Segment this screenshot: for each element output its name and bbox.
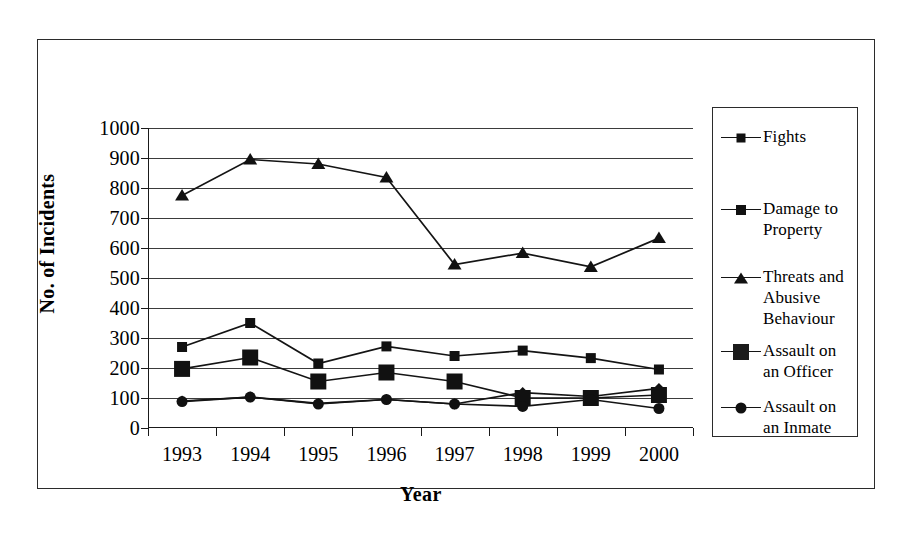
x-axis-tick-mark xyxy=(421,428,422,436)
y-axis-title: No. of Incidents xyxy=(36,134,59,354)
x-axis-tick-mark xyxy=(148,428,149,436)
x-axis-tick-label: 1996 xyxy=(366,443,406,465)
data-point-marker xyxy=(653,403,664,414)
series-layer xyxy=(148,128,694,429)
y-axis-tick-mark xyxy=(141,158,148,159)
data-point-marker xyxy=(450,351,460,361)
y-axis-tick-mark xyxy=(141,338,148,339)
y-axis-tick-labels: 10009008007006005004003002001000 xyxy=(58,118,140,438)
data-point-marker xyxy=(378,365,394,381)
legend-label: Assault on an Officer xyxy=(763,340,836,382)
y-axis-tick-label: 500 xyxy=(58,268,140,288)
x-axis-tick-mark xyxy=(693,428,694,436)
x-axis-tick-mark xyxy=(284,428,285,436)
x-axis-tick-mark xyxy=(489,428,490,436)
data-point-marker xyxy=(177,342,187,352)
y-axis-tick-mark xyxy=(141,398,148,399)
data-point-marker xyxy=(245,318,255,328)
series-damage-to-property xyxy=(177,318,664,375)
y-axis-tick-mark xyxy=(141,218,148,219)
chart-legend: FightsDamage to PropertyThreats and Abus… xyxy=(712,107,858,437)
x-axis-tick-label: 1994 xyxy=(230,443,270,465)
x-axis-tick-labels: 19931994199519961997199819992000 xyxy=(148,443,694,469)
x-axis-tick-label: 1999 xyxy=(571,443,611,465)
data-point-marker xyxy=(174,361,190,377)
circle-marker-icon xyxy=(736,403,747,414)
x-axis-tick-label: 1997 xyxy=(435,443,475,465)
legend-label: Threats and Abusive Behaviour xyxy=(763,266,844,329)
chart-page: No. of Incidents 10009008007006005004003… xyxy=(0,0,913,555)
legend-key-diamond-icon xyxy=(719,128,763,148)
legend-key-triangle-icon xyxy=(719,268,763,288)
legend-key-big-square-icon xyxy=(719,342,763,362)
y-axis-tick-mark xyxy=(141,428,148,429)
x-axis-tick-mark xyxy=(625,428,626,436)
data-point-marker xyxy=(516,247,530,259)
legend-item-damage-to[interactable]: Damage to Property xyxy=(719,198,859,240)
x-axis-tick-mark xyxy=(557,428,558,436)
data-point-marker xyxy=(518,346,528,356)
legend-item-assault-on[interactable]: Assault on an Officer xyxy=(719,340,859,382)
y-axis-tick-mark xyxy=(141,128,148,129)
legend-item-fights[interactable]: Fights xyxy=(719,126,859,148)
legend-item-threats-and[interactable]: Threats and Abusive Behaviour xyxy=(719,266,859,329)
series-line xyxy=(182,160,659,267)
legend-label: Fights xyxy=(763,126,806,147)
y-axis-tick-label: 300 xyxy=(58,328,140,348)
legend-key-circle-icon xyxy=(719,398,763,418)
data-point-marker xyxy=(245,392,256,403)
data-point-marker xyxy=(585,394,596,405)
x-axis-tick-mark xyxy=(352,428,353,436)
y-axis-tick-label: 600 xyxy=(58,238,140,258)
legend-label: Damage to Property xyxy=(763,198,838,240)
square-marker-icon xyxy=(736,205,746,215)
data-point-marker xyxy=(517,401,528,412)
data-point-marker xyxy=(313,359,323,369)
y-axis-tick-label: 0 xyxy=(58,418,140,438)
x-axis-tick-label: 1998 xyxy=(503,443,543,465)
y-axis-tick-label: 100 xyxy=(58,388,140,408)
data-point-marker xyxy=(177,396,188,407)
data-point-marker xyxy=(242,350,258,366)
x-axis-tick-label: 1995 xyxy=(298,443,338,465)
y-axis-tick-label: 200 xyxy=(58,358,140,378)
x-axis-title: Year xyxy=(148,483,694,506)
y-axis-tick-mark xyxy=(141,278,148,279)
data-point-marker xyxy=(652,232,666,244)
data-point-marker xyxy=(175,189,189,201)
data-point-marker xyxy=(654,365,664,375)
triangle-marker-icon xyxy=(734,273,748,284)
diamond-marker-icon xyxy=(737,134,746,143)
x-axis-tick-label: 2000 xyxy=(639,443,679,465)
data-point-marker xyxy=(243,153,257,165)
data-point-marker xyxy=(651,387,667,403)
legend-key-square-icon xyxy=(719,200,763,220)
data-point-marker xyxy=(381,394,392,405)
y-axis-tick-mark xyxy=(141,308,148,309)
series-assault-on-an-inmate xyxy=(177,392,665,414)
y-axis-tick-label: 400 xyxy=(58,298,140,318)
y-axis-tick-label: 700 xyxy=(58,208,140,228)
x-axis-tick-marks xyxy=(148,428,694,438)
line-chart: No. of Incidents 10009008007006005004003… xyxy=(0,0,913,555)
x-axis-tick-label: 1993 xyxy=(162,443,202,465)
y-axis-tick-mark xyxy=(141,188,148,189)
y-axis-tick-mark xyxy=(141,368,148,369)
data-point-marker xyxy=(381,341,391,351)
data-point-marker xyxy=(310,374,326,390)
series-threats-and-abusive-behaviour xyxy=(175,153,666,272)
data-point-marker xyxy=(313,399,324,410)
legend-label: Assault on an Inmate xyxy=(763,396,836,438)
y-axis-tick-label: 800 xyxy=(58,178,140,198)
y-axis-tick-mark xyxy=(141,248,148,249)
legend-item-assault-on[interactable]: Assault on an Inmate xyxy=(719,396,859,438)
data-point-marker xyxy=(586,353,596,363)
data-point-marker xyxy=(449,399,460,410)
big-square-marker-icon xyxy=(733,344,749,360)
y-axis-tick-label: 900 xyxy=(58,148,140,168)
y-axis-tick-label: 1000 xyxy=(58,118,140,138)
data-point-marker xyxy=(447,374,463,390)
x-axis-tick-mark xyxy=(216,428,217,436)
